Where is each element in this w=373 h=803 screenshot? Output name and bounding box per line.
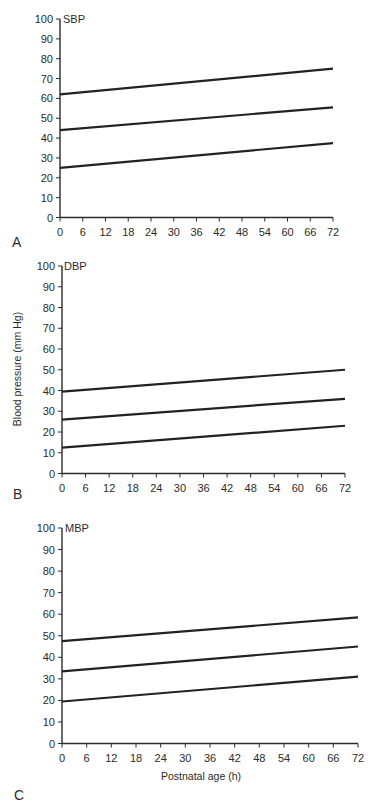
y-tick-label: 70 bbox=[41, 73, 53, 85]
y-tick-label: 20 bbox=[41, 172, 53, 184]
y-tick-label: 70 bbox=[43, 322, 55, 334]
y-tick-label: 50 bbox=[43, 364, 55, 376]
panel-b-letter: B bbox=[13, 486, 22, 502]
y-tick-label: 40 bbox=[43, 651, 55, 663]
x-tick-label: 36 bbox=[197, 482, 209, 494]
y-tick-label: 20 bbox=[43, 426, 55, 438]
x-tick-label: 24 bbox=[155, 752, 167, 764]
x-tick-label: 54 bbox=[278, 752, 290, 764]
y-tick-label: 100 bbox=[35, 13, 53, 25]
y-tick-label: 10 bbox=[43, 447, 55, 459]
panel-c-letter: C bbox=[14, 787, 24, 803]
figure-canvas: 0102030405060708090100061218243036424854… bbox=[0, 0, 373, 803]
x-tick-label: 6 bbox=[80, 226, 86, 238]
x-tick-label: 42 bbox=[213, 226, 225, 238]
y-tick-label: 30 bbox=[43, 405, 55, 417]
x-tick-label: 48 bbox=[245, 482, 257, 494]
y-tick-label: 90 bbox=[41, 33, 53, 45]
panel-c-title: MBP bbox=[65, 522, 89, 534]
x-tick-label: 0 bbox=[59, 752, 65, 764]
y-tick-label: 60 bbox=[41, 92, 53, 104]
panel-c-mbp: 0102030405060708090100061218243036424854… bbox=[14, 522, 364, 803]
y-tick-label: 10 bbox=[41, 192, 53, 204]
panel-a-title: SBP bbox=[63, 13, 85, 25]
y-tick-label: 0 bbox=[49, 468, 55, 480]
x-tick-label: 0 bbox=[57, 226, 63, 238]
panel-b-axes: 0102030405060708090100061218243036424854… bbox=[37, 260, 351, 494]
y-tick-label: 50 bbox=[43, 630, 55, 642]
x-tick-label: 24 bbox=[150, 482, 162, 494]
x-tick-label: 0 bbox=[59, 482, 65, 494]
x-tick-label: 66 bbox=[327, 752, 339, 764]
x-tick-label: 60 bbox=[292, 482, 304, 494]
y-tick-label: 50 bbox=[41, 112, 53, 124]
x-tick-label: 72 bbox=[327, 226, 339, 238]
panel-a-series bbox=[60, 69, 333, 168]
panel-a-sbp: 0102030405060708090100061218243036424854… bbox=[12, 13, 339, 250]
series-line-lower bbox=[62, 677, 358, 702]
panel-b-title: DBP bbox=[64, 260, 87, 272]
series-line-middle bbox=[62, 647, 358, 672]
y-tick-label: 100 bbox=[37, 260, 55, 272]
x-tick-label: 12 bbox=[99, 226, 111, 238]
y-tick-label: 30 bbox=[43, 673, 55, 685]
y-tick-label: 80 bbox=[43, 302, 55, 314]
x-tick-label: 42 bbox=[221, 482, 233, 494]
y-tick-label: 100 bbox=[37, 522, 55, 534]
x-tick-label: 30 bbox=[174, 482, 186, 494]
x-tick-label: 6 bbox=[83, 482, 89, 494]
series-line-middle bbox=[62, 399, 345, 420]
x-tick-label: 6 bbox=[84, 752, 90, 764]
panel-a-axes: 0102030405060708090100061218243036424854… bbox=[35, 13, 339, 238]
y-tick-label: 90 bbox=[43, 281, 55, 293]
y-tick-label: 40 bbox=[41, 132, 53, 144]
x-tick-label: 24 bbox=[145, 226, 157, 238]
x-tick-label: 36 bbox=[204, 752, 216, 764]
x-tick-label: 60 bbox=[281, 226, 293, 238]
series-line-upper bbox=[62, 370, 345, 392]
x-tick-label: 72 bbox=[352, 752, 364, 764]
y-tick-label: 80 bbox=[41, 53, 53, 65]
x-tick-label: 66 bbox=[315, 482, 327, 494]
x-tick-label: 72 bbox=[339, 482, 351, 494]
y-tick-label: 40 bbox=[43, 385, 55, 397]
y-tick-label: 0 bbox=[47, 212, 53, 224]
x-tick-label: 54 bbox=[259, 226, 271, 238]
y-tick-label: 30 bbox=[41, 152, 53, 164]
x-tick-label: 42 bbox=[229, 752, 241, 764]
x-tick-label: 54 bbox=[268, 482, 280, 494]
panel-a-letter: A bbox=[12, 234, 22, 250]
y-tick-label: 60 bbox=[43, 343, 55, 355]
series-line-lower bbox=[62, 426, 345, 448]
x-tick-label: 12 bbox=[103, 482, 115, 494]
panel-c-series bbox=[62, 617, 358, 701]
x-tick-label: 66 bbox=[304, 226, 316, 238]
y-tick-label: 10 bbox=[43, 716, 55, 728]
x-tick-label: 12 bbox=[105, 752, 117, 764]
x-tick-label: 48 bbox=[236, 226, 248, 238]
x-tick-label: 30 bbox=[179, 752, 191, 764]
panel-b-series bbox=[62, 370, 345, 448]
y-tick-label: 0 bbox=[49, 738, 55, 750]
y-tick-label: 20 bbox=[43, 694, 55, 706]
series-line-upper bbox=[60, 69, 333, 95]
x-tick-label: 48 bbox=[253, 752, 265, 764]
series-line-lower bbox=[60, 143, 333, 168]
x-tick-label: 60 bbox=[303, 752, 315, 764]
series-line-upper bbox=[62, 617, 358, 641]
y-axis-title: Blood pressure (mm Hg) bbox=[11, 312, 23, 426]
y-tick-label: 90 bbox=[43, 544, 55, 556]
panel-c-axes: 0102030405060708090100061218243036424854… bbox=[37, 522, 364, 764]
x-tick-label: 36 bbox=[190, 226, 202, 238]
x-axis-title: Postnatal age (h) bbox=[161, 770, 241, 782]
panel-b-dbp: 0102030405060708090100061218243036424854… bbox=[11, 260, 351, 502]
y-tick-label: 60 bbox=[43, 608, 55, 620]
x-tick-label: 30 bbox=[168, 226, 180, 238]
y-tick-label: 70 bbox=[43, 587, 55, 599]
x-tick-label: 18 bbox=[127, 482, 139, 494]
y-tick-label: 80 bbox=[43, 565, 55, 577]
x-tick-label: 18 bbox=[122, 226, 134, 238]
blood-pressure-figure: 0102030405060708090100061218243036424854… bbox=[0, 0, 373, 803]
x-tick-label: 18 bbox=[130, 752, 142, 764]
series-line-middle bbox=[60, 107, 333, 130]
